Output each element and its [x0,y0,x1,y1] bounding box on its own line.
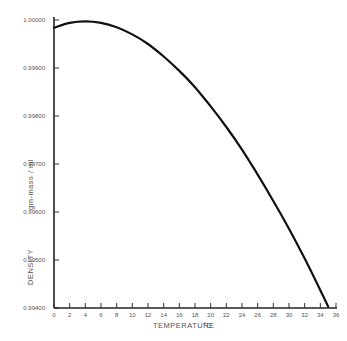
x-tick-label: 30 [286,312,293,318]
x-tick-label: 34 [317,312,324,318]
x-tick-label: 20 [207,312,214,318]
x-tick-label: 0 [52,312,56,318]
x-tick-label: 2 [68,312,72,318]
x-tick-label: 24 [239,312,246,318]
y-axis-unit: gm-mass / ml [26,159,35,210]
y-tick-label: 0.99800 [23,113,45,119]
x-tick-label: 36 [333,312,340,318]
x-tick-label: 32 [301,312,308,318]
x-axis: 024681012141618202224262830323436 [52,303,340,318]
x-tick-label: 6 [99,312,103,318]
x-tick-label: 10 [129,312,136,318]
x-tick-label: 18 [192,312,199,318]
x-tick-label: 26 [254,312,261,318]
x-tick-label: 16 [176,312,183,318]
y-tick-label: 0.99900 [23,65,45,71]
density-curve [54,21,328,306]
density-temperature-chart: 0.994000.995000.996000.997000.998000.999… [0,0,347,341]
x-tick-label: 12 [145,312,152,318]
y-axis-title: DENSITY [26,249,35,285]
x-tick-label: 28 [270,312,277,318]
x-tick-label: 8 [115,312,119,318]
x-tick-label: 4 [84,312,88,318]
y-tick-label: 0.99400 [23,305,45,311]
x-tick-label: 14 [160,312,167,318]
x-tick-label: 22 [223,312,230,318]
y-tick-label: 1.00000 [23,17,45,23]
x-axis-unit: °C [203,321,212,330]
